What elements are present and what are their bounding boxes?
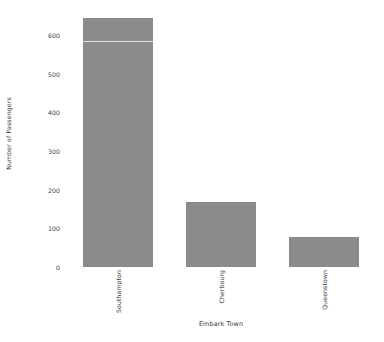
y-axis-tick-label: 400	[48, 109, 60, 116]
y-axis-tick-label: 200	[48, 186, 60, 193]
plot-area	[66, 12, 376, 267]
x-axis-tick-label-text: Queenstown	[321, 270, 328, 310]
y-axis-title: Number of Passengers	[0, 0, 16, 267]
y-axis-tick-label: 500	[48, 70, 60, 77]
y-axis-tick-label: 100	[48, 225, 60, 232]
y-axis-tick-label: 600	[48, 32, 60, 39]
bar-seam	[83, 41, 153, 42]
bar-chart-figure: Number of Passengers 0100200300400500600…	[0, 0, 384, 342]
x-axis-tick-label-text: Southampton	[114, 270, 121, 313]
y-axis-tick-label: 300	[48, 148, 60, 155]
x-axis-tick-labels: SouthamptonCherbourgQueenstown	[66, 267, 376, 322]
x-axis-tick-label-text: Cherbourg	[218, 270, 225, 304]
bar[interactable]	[83, 18, 153, 267]
bar[interactable]	[289, 237, 359, 267]
x-axis-title: Embark Town	[66, 320, 376, 328]
y-axis-title-text: Number of Passengers	[5, 97, 12, 170]
y-axis-tick-labels: 0100200300400500600	[16, 0, 66, 342]
y-axis-tick-label: 0	[56, 264, 60, 271]
bar[interactable]	[186, 202, 256, 267]
